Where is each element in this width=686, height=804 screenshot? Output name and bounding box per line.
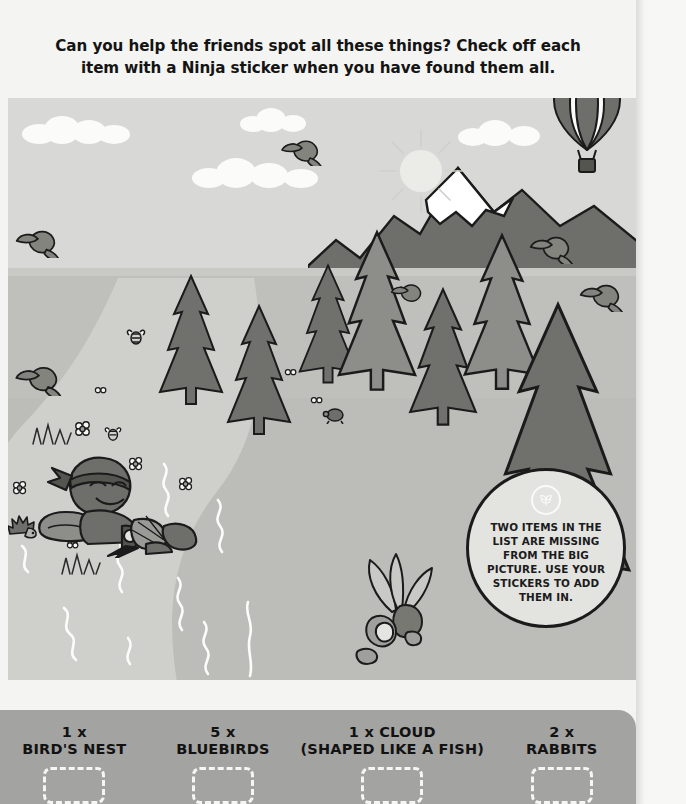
instruction-text: Can you help the friends spot all these … xyxy=(38,36,598,79)
leaf-badge-icon xyxy=(531,485,561,515)
instruction-header: Can you help the friends spot all these … xyxy=(0,28,636,88)
checklist-item-2[interactable]: 5 x BLUEBIRDS xyxy=(149,710,298,804)
cloud-3 xyxy=(458,120,554,146)
grass-tuft-1 xyxy=(30,420,76,446)
bee-2 xyxy=(104,424,122,442)
bird-5 xyxy=(14,362,64,396)
sticker-checkbox-4[interactable] xyxy=(531,767,593,804)
item-quantity: 5 x xyxy=(210,724,235,740)
bird-3 xyxy=(578,280,626,312)
activity-page: Can you help the friends spot all these … xyxy=(0,0,686,804)
sun-icon xyxy=(378,128,464,214)
item-label: BIRD'S NEST xyxy=(22,740,126,759)
checklist-item-4[interactable]: 2 x RABBITS xyxy=(487,710,636,804)
pine-tree-1 xyxy=(156,274,226,406)
bird-6 xyxy=(390,280,426,306)
checklist-item-1[interactable]: 1 x BIRD'S NEST xyxy=(0,710,149,804)
item-quantity: 1 x CLOUD xyxy=(349,724,436,740)
cloud-4 xyxy=(240,108,310,132)
instruction-line-2: item with a Ninja sticker when you have … xyxy=(38,58,598,80)
item-label: (SHAPED LIKE A FISH) xyxy=(300,740,484,759)
checklist-row: 1 x BIRD'S NEST 5 x BLUEBIRDS 1 x CLOUD … xyxy=(0,710,636,804)
sticker-checkbox-1[interactable] xyxy=(43,767,105,804)
flower-7 xyxy=(310,394,324,408)
plant-with-rocks xyxy=(346,548,456,668)
bird-4 xyxy=(14,226,62,258)
flower-8 xyxy=(94,384,108,398)
flower-1 xyxy=(74,420,92,438)
callout-text: TWO ITEMS IN THE LIST ARE MISSING FROM T… xyxy=(481,521,611,605)
page-edge-shadow xyxy=(636,0,645,804)
turtle xyxy=(322,404,348,424)
checklist-panel: 1 x BIRD'S NEST 5 x BLUEBIRDS 1 x CLOUD … xyxy=(0,710,636,804)
cloud-1 xyxy=(22,114,132,144)
sticker-checkbox-2[interactable] xyxy=(192,767,254,804)
item-quantity: 2 x xyxy=(549,724,574,740)
page-edge xyxy=(636,0,686,804)
item-label: BLUEBIRDS xyxy=(176,740,269,759)
bird-2 xyxy=(528,232,576,264)
instruction-line-1: Can you help the friends spot all these … xyxy=(38,36,598,58)
bird-1 xyxy=(280,136,324,166)
scene-illustration: TWO ITEMS IN THE LIST ARE MISSING FROM T… xyxy=(8,98,636,680)
callout-note: TWO ITEMS IN THE LIST ARE MISSING FROM T… xyxy=(466,468,626,628)
sticker-checkbox-3[interactable] xyxy=(361,767,423,804)
bee-1 xyxy=(126,326,146,346)
reclining-ninja-character xyxy=(26,446,206,558)
flower-6 xyxy=(284,366,298,380)
item-label: RABBITS xyxy=(526,740,598,759)
checklist-item-3[interactable]: 1 x CLOUD (SHAPED LIKE A FISH) xyxy=(297,710,487,804)
hot-air-balloon xyxy=(548,98,626,174)
item-quantity: 1 x xyxy=(62,724,87,740)
